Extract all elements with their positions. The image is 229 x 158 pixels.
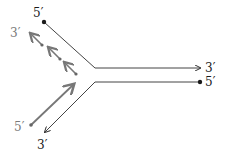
diagram-svg: 5′ 3′ 5′ 3′ 3′ 5′	[0, 0, 229, 158]
replication-fork-diagram: 5′ 3′ 5′ 3′ 3′ 5′	[0, 0, 229, 158]
bottom-5prime-dot	[198, 80, 202, 84]
top-5prime-dot	[42, 20, 46, 24]
bottom-3prime-label: 3′	[37, 138, 48, 152]
leading-strand	[29, 85, 73, 127]
lagging-3prime-label: 3′	[10, 26, 21, 40]
bottom-parental-strand	[45, 80, 202, 132]
okazaki-fragment-2	[49, 48, 60, 59]
top-parental-strand	[42, 20, 200, 68]
top-5prime-label: 5′	[33, 6, 44, 20]
leading-5prime-dot	[29, 123, 33, 127]
okazaki-fragment-1	[31, 34, 42, 45]
top-3prime-label: 3′	[205, 61, 216, 75]
leading-5prime-label: 5′	[14, 120, 25, 134]
bottom-5prime-label: 5′	[205, 75, 216, 89]
okazaki-fragment-3	[65, 63, 76, 74]
lagging-strand-fragments	[31, 34, 78, 76]
